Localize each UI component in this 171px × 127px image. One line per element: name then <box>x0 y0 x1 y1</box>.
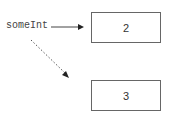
value-box-2: 2 <box>91 12 161 43</box>
dashed-arrow-icon <box>31 40 69 78</box>
box-value: 2 <box>123 22 129 34</box>
solid-arrow-icon <box>51 24 84 30</box>
box-value: 3 <box>123 90 129 102</box>
value-box-3: 3 <box>91 80 161 111</box>
